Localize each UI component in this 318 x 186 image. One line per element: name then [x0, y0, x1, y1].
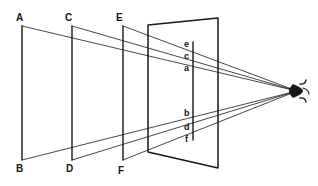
label-c: c — [184, 52, 189, 61]
label-D: D — [66, 164, 73, 174]
label-C: C — [65, 13, 72, 23]
visual-rays — [22, 26, 297, 160]
eye-brow — [303, 88, 309, 94]
ray-B-to-eye — [22, 91, 297, 160]
eye-lash-lower — [300, 98, 306, 102]
label-e: e — [184, 40, 189, 49]
label-B: B — [16, 164, 23, 174]
label-f: f — [185, 135, 188, 144]
label-F: F — [118, 166, 124, 176]
label-A: A — [16, 13, 23, 23]
ray-E-to-eye — [123, 26, 297, 91]
diagram-canvas — [0, 0, 318, 186]
label-E: E — [116, 13, 123, 23]
eye — [289, 80, 309, 102]
eye-lash-upper — [300, 80, 306, 84]
label-d: d — [184, 123, 190, 132]
label-a: a — [184, 64, 189, 73]
ray-F-to-eye — [123, 91, 297, 160]
label-b: b — [184, 109, 190, 118]
ray-A-to-eye — [22, 26, 297, 91]
eye-lens — [289, 84, 303, 98]
perspective-diagram: A B C D E F e c a b d f — [0, 0, 318, 186]
